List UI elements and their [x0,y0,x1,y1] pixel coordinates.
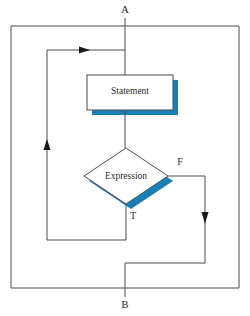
loopback-up-arrow-icon [44,139,51,150]
false-down-arrow-icon [202,212,209,224]
branch-label-false: F [173,157,187,167]
flowchart-canvas: A Statement Expression T F B [0,0,250,316]
branch-label-true: T [126,211,140,221]
terminal-label-a: A [0,4,250,15]
loopback-arrow-icon [79,47,90,54]
statement-node-label: Statement [87,87,173,97]
terminal-label-b: B [0,299,250,310]
expression-node-label: Expression [84,172,168,182]
flowchart-graphic [0,0,250,316]
edge-true-branch [47,204,126,240]
